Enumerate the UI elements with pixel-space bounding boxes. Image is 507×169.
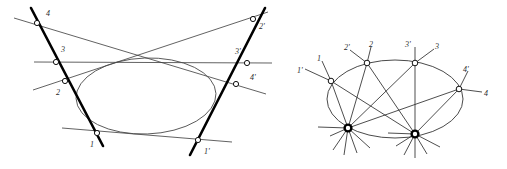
label-left-2: 2	[56, 88, 60, 97]
label-left-1: 1	[90, 140, 94, 149]
chord-hubA-3	[348, 63, 415, 128]
stub-3-a	[415, 49, 434, 63]
chord-hubA-1	[331, 81, 348, 128]
right-panel: 1' 1 2' 2 3' 3 4' 4	[297, 40, 488, 158]
node-1p	[195, 137, 200, 142]
node-4	[34, 20, 39, 25]
pencil-vertex-right	[412, 131, 419, 138]
label-right-3: 3	[434, 42, 439, 51]
stub-1p-a	[305, 69, 331, 81]
label-left-1p: 1'	[204, 147, 210, 156]
label-left-4: 4	[46, 9, 50, 18]
right-panel-nodes	[328, 60, 462, 92]
label-right-1: 1	[317, 54, 321, 63]
geometry-figure: 4 3 2 1 2' 3' 4' 1'	[0, 0, 507, 169]
figure-canvas: 4 3 2 1 2' 3' 4' 1'	[0, 0, 507, 169]
node-r1	[328, 78, 334, 84]
node-r2	[364, 60, 370, 66]
left-range-line	[31, 8, 103, 146]
label-right-2p: 2'	[344, 43, 350, 52]
chord-hubA-4	[348, 89, 459, 128]
label-left-3p: 3'	[234, 47, 241, 56]
node-2	[62, 78, 67, 83]
label-left-2p: 2'	[259, 22, 265, 31]
node-3	[53, 59, 58, 64]
node-1	[94, 130, 99, 135]
label-right-1p: 1'	[297, 66, 303, 75]
node-2p	[250, 16, 255, 21]
node-3p	[244, 60, 249, 65]
left-panel-nodes	[34, 16, 255, 142]
label-right-4: 4	[484, 89, 488, 98]
left-panel-thin-lines	[14, 12, 272, 142]
chord-hubB-1	[331, 81, 415, 134]
label-right-4p: 4'	[463, 65, 469, 74]
chord-hubB-2	[367, 63, 415, 134]
right-panel-chords	[331, 63, 459, 134]
label-left-4p: 4'	[250, 73, 256, 82]
right-panel-hub-rays	[318, 127, 440, 158]
node-r3	[412, 60, 418, 66]
line-1-to-1p	[62, 128, 232, 142]
node-4p	[233, 81, 238, 86]
label-right-3p: 3'	[404, 40, 411, 49]
pencil-vertex-left	[345, 125, 352, 132]
label-left-3: 3	[60, 45, 65, 54]
node-r4	[456, 86, 462, 92]
label-right-2: 2	[369, 40, 373, 49]
chord-hubB-4	[415, 89, 459, 134]
left-conic	[75, 56, 218, 137]
stub-4-a	[459, 89, 482, 92]
left-panel: 4 3 2 1 2' 3' 4' 1'	[14, 8, 272, 156]
